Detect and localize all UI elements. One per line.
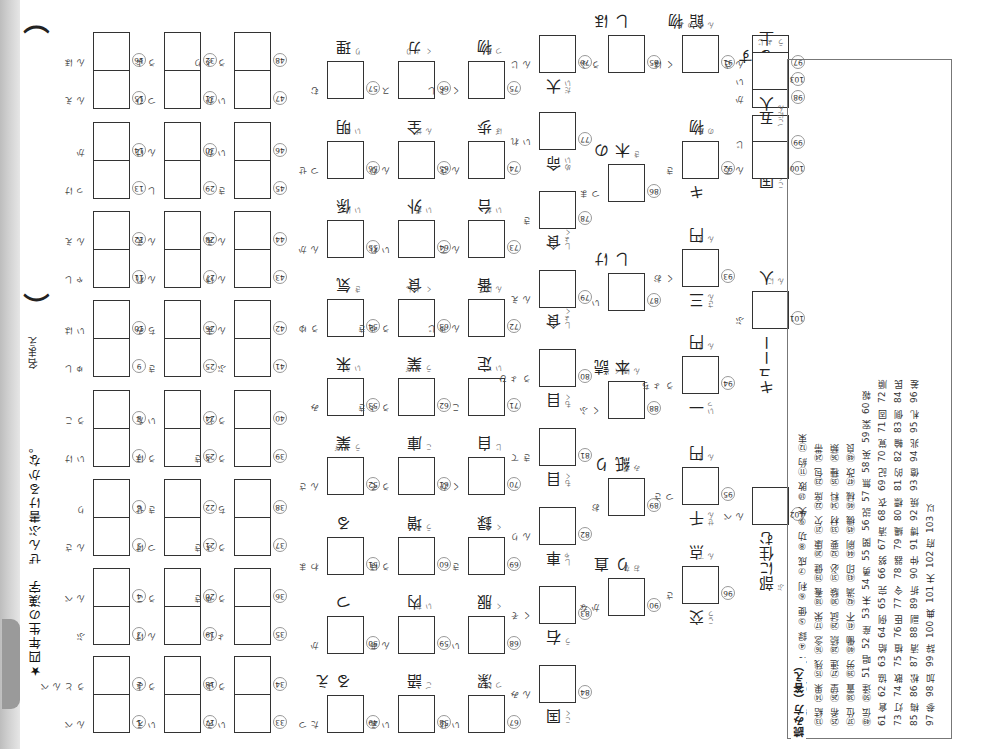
answer-box[interactable] bbox=[93, 606, 130, 645]
answer-box[interactable] bbox=[752, 487, 789, 525]
answer-box[interactable] bbox=[234, 390, 271, 429]
answer-box[interactable] bbox=[164, 160, 201, 199]
answer-box[interactable] bbox=[93, 338, 130, 377]
answer-box[interactable] bbox=[234, 300, 271, 339]
answer-box[interactable] bbox=[93, 211, 130, 250]
answer-box[interactable] bbox=[468, 141, 505, 179]
answer-box[interactable] bbox=[398, 378, 435, 416]
answer-box[interactable] bbox=[539, 35, 576, 73]
prefix-reading: もく bbox=[564, 473, 574, 487]
answer-box[interactable] bbox=[752, 141, 789, 179]
answer-box[interactable] bbox=[682, 249, 719, 287]
answer-box[interactable] bbox=[327, 220, 364, 258]
answer-box[interactable] bbox=[327, 695, 364, 733]
answer-box[interactable] bbox=[468, 61, 505, 99]
answer-box[interactable] bbox=[468, 537, 505, 575]
answer-box[interactable] bbox=[608, 381, 645, 419]
answer-box[interactable] bbox=[539, 507, 576, 545]
name-field-close[interactable]: ） bbox=[24, 8, 50, 34]
answer-box[interactable] bbox=[164, 694, 201, 733]
answer-box[interactable] bbox=[93, 32, 130, 71]
answer-key-item: ⑨失 bbox=[794, 507, 811, 526]
answer-box[interactable] bbox=[164, 390, 201, 429]
answer-box[interactable] bbox=[327, 537, 364, 575]
answer-box[interactable] bbox=[608, 578, 645, 616]
answer-box[interactable] bbox=[608, 164, 645, 202]
answer-box[interactable] bbox=[93, 300, 130, 339]
answer-box[interactable] bbox=[539, 349, 576, 387]
furigana-hint: ぶ bbox=[217, 364, 229, 373]
answer-box[interactable] bbox=[164, 606, 201, 645]
answer-box[interactable] bbox=[468, 695, 505, 733]
answer-box[interactable] bbox=[93, 656, 130, 695]
answer-box[interactable] bbox=[539, 270, 576, 308]
answer-box[interactable] bbox=[93, 122, 130, 161]
answer-box[interactable] bbox=[164, 656, 201, 695]
furigana-hint: えん bbox=[510, 295, 534, 304]
answer-box[interactable] bbox=[398, 695, 435, 733]
answer-box[interactable] bbox=[539, 586, 576, 624]
answer-box[interactable] bbox=[398, 220, 435, 258]
answer-box[interactable] bbox=[164, 479, 201, 518]
answer-box[interactable] bbox=[398, 616, 435, 654]
furigana-hint: まわ bbox=[298, 562, 322, 571]
answer-box[interactable] bbox=[468, 299, 505, 337]
answer-box[interactable] bbox=[327, 141, 364, 179]
answer-box[interactable] bbox=[234, 70, 271, 109]
answer-box[interactable] bbox=[93, 390, 130, 429]
answer-box[interactable] bbox=[164, 70, 201, 109]
answer-box[interactable] bbox=[93, 568, 130, 607]
answer-box[interactable] bbox=[234, 338, 271, 377]
answer-box[interactable] bbox=[468, 220, 505, 258]
answer-box[interactable] bbox=[93, 70, 130, 109]
answer-box[interactable] bbox=[468, 616, 505, 654]
answer-box[interactable] bbox=[327, 61, 364, 99]
answer-box[interactable] bbox=[752, 52, 789, 90]
answer-box[interactable] bbox=[468, 378, 505, 416]
answer-box[interactable] bbox=[608, 273, 645, 311]
answer-box[interactable] bbox=[234, 211, 271, 250]
answer-box[interactable] bbox=[234, 606, 271, 645]
answer-box[interactable] bbox=[327, 457, 364, 495]
answer-box[interactable] bbox=[682, 35, 719, 73]
answer-box[interactable] bbox=[93, 517, 130, 556]
answer-box[interactable] bbox=[468, 457, 505, 495]
answer-box[interactable] bbox=[682, 467, 719, 505]
answer-box[interactable] bbox=[93, 160, 130, 199]
answer-box[interactable] bbox=[93, 479, 130, 518]
answer-box[interactable] bbox=[234, 428, 271, 467]
name-field-open[interactable]: （ bbox=[24, 293, 50, 319]
answer-box[interactable] bbox=[327, 616, 364, 654]
answer-box[interactable] bbox=[93, 694, 130, 733]
answer-box[interactable] bbox=[164, 211, 201, 250]
answer-box[interactable] bbox=[234, 249, 271, 288]
answer-box[interactable] bbox=[682, 141, 719, 179]
answer-box[interactable] bbox=[234, 122, 271, 161]
answer-box[interactable] bbox=[539, 428, 576, 466]
answer-box[interactable] bbox=[398, 457, 435, 495]
answer-box[interactable] bbox=[539, 112, 576, 150]
answer-box[interactable] bbox=[398, 537, 435, 575]
answer-box[interactable] bbox=[752, 291, 789, 329]
answer-box[interactable] bbox=[398, 141, 435, 179]
answer-box[interactable] bbox=[164, 249, 201, 288]
answer-box[interactable] bbox=[234, 32, 271, 71]
answer-box[interactable] bbox=[164, 338, 201, 377]
answer-box[interactable] bbox=[93, 428, 130, 467]
answer-box[interactable] bbox=[608, 35, 645, 73]
answer-box[interactable] bbox=[539, 191, 576, 229]
answer-box[interactable] bbox=[234, 656, 271, 695]
answer-box[interactable] bbox=[234, 479, 271, 518]
okurigana-reading: ぜん bbox=[415, 128, 435, 135]
answer-box[interactable] bbox=[539, 665, 576, 703]
answer-box[interactable] bbox=[682, 566, 719, 604]
answer-box[interactable] bbox=[164, 300, 201, 339]
answer-box[interactable] bbox=[682, 356, 719, 394]
answer-box[interactable] bbox=[608, 478, 645, 516]
answer-box[interactable] bbox=[234, 160, 271, 199]
answer-box[interactable] bbox=[234, 517, 271, 556]
answer-box[interactable] bbox=[234, 694, 271, 733]
answer-box[interactable] bbox=[93, 249, 130, 288]
answer-box[interactable] bbox=[234, 568, 271, 607]
answer-box[interactable] bbox=[164, 122, 201, 161]
